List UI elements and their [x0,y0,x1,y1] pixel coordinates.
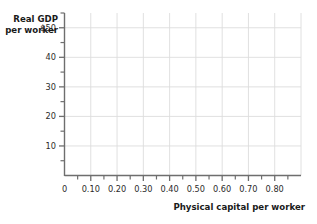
y-tick-label: 20 [46,111,56,121]
x-tick-label: 0.40 [160,184,178,194]
y-tick-label: 10 [46,141,56,151]
x-tick-label: 0.20 [108,184,126,194]
x-tick-label: 0.10 [82,184,100,194]
x-tick-label: 0.30 [134,184,152,194]
x-tick-label: 0.60 [213,184,231,194]
x-tick-label: 0.50 [187,184,205,194]
x-tick-label: 0.70 [239,184,257,194]
x-tick-label: 0.80 [266,184,284,194]
y-axis-title-line1: Real GDP [13,14,58,24]
x-tick-label: 0 [62,184,67,194]
x-axis-title: Physical capital per worker [173,202,305,212]
chart-canvas: $5040302010 00.100.200.300.400.500.600.7… [0,0,317,224]
y-tick-label: 30 [46,82,56,92]
chart-figure: $5040302010 00.100.200.300.400.500.600.7… [0,0,317,224]
y-tick-label: 40 [46,52,56,62]
y-axis-title-line2: per worker [5,25,59,35]
x-axis-tick-labels: 00.100.200.300.400.500.600.700.80 [62,184,284,194]
